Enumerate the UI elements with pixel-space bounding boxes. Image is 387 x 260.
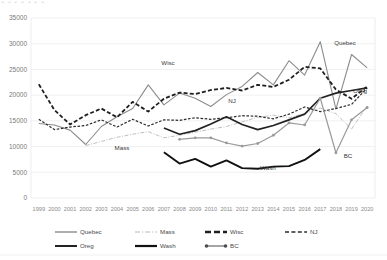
- series-label-mass: Mass: [115, 144, 130, 151]
- y-tick-label: 25000: [9, 66, 27, 73]
- x-tick-label: 2016: [298, 206, 310, 212]
- x-tick-label: 2004: [111, 206, 123, 212]
- y-tick-label: 10000: [9, 143, 27, 150]
- x-tick-label: 2005: [126, 206, 138, 212]
- legend-label-wisc: Wisc: [230, 228, 243, 235]
- y-tick-label: 35000: [9, 14, 27, 21]
- x-tick-label: 2010: [205, 206, 217, 212]
- legend-item-mass[interactable]: Mass: [135, 228, 175, 235]
- series-marker-bc: [288, 122, 291, 125]
- x-tick-label: 2007: [158, 206, 170, 212]
- legend-label-bc: BC: [230, 242, 239, 249]
- legend: QuebecMassWiscNJOregWashBC: [0, 228, 387, 255]
- chart-screenshot: ⌄ ⌄ ⌄ ⌄ ⌄ ⌄ ⌄ 05000100001500020000250003…: [0, 0, 387, 260]
- legend-item-wash[interactable]: Wash: [135, 242, 176, 249]
- series-line-nj: [39, 88, 367, 130]
- x-tick-label: 2011: [220, 206, 232, 212]
- series-label-wisc: Wisc: [161, 59, 174, 66]
- series-line-quebec: [39, 42, 367, 145]
- series-line-wisc: [39, 67, 367, 125]
- x-tick-label: 2014: [267, 206, 279, 212]
- series-marker-bc: [178, 138, 181, 141]
- legend-label-nj: NJ: [310, 228, 318, 235]
- series-line-mass: [86, 106, 367, 146]
- series-marker-bc: [256, 142, 259, 145]
- legend-item-nj[interactable]: NJ: [285, 228, 318, 235]
- y-tick-label: 30000: [9, 40, 27, 47]
- series-marker-bc: [366, 106, 369, 109]
- series-paths-group: [39, 42, 369, 169]
- y-tick-label: 5000: [13, 169, 28, 176]
- series-line-wash: [164, 149, 320, 169]
- series-marker-bc: [241, 145, 244, 148]
- series-marker-bc: [335, 151, 338, 154]
- series-label-bc: BC: [344, 152, 353, 159]
- series-label-oreg: Oreg: [353, 87, 367, 94]
- legend-item-quebec[interactable]: Quebec: [55, 228, 102, 235]
- x-tick-label: 2006: [142, 206, 154, 212]
- x-tick-label: 2000: [48, 206, 60, 212]
- legend-label-quebec: Quebec: [80, 228, 102, 235]
- x-tick-label: 2003: [95, 206, 107, 212]
- x-tick-label: 2018: [330, 206, 342, 212]
- x-tick-label: 2001: [64, 206, 76, 212]
- series-marker-bc: [272, 134, 275, 137]
- legend-item-bc[interactable]: BC: [205, 242, 239, 249]
- series-label-nj: NJ: [228, 97, 236, 104]
- x-tick-label: 2013: [252, 206, 264, 212]
- y-tick-label: 0: [23, 194, 27, 201]
- x-tick-label: 2009: [189, 206, 201, 212]
- x-tick-label: 2015: [283, 206, 295, 212]
- series-marker-bc: [319, 97, 322, 100]
- cropped-header-strip: ⌄ ⌄ ⌄ ⌄ ⌄ ⌄ ⌄: [0, 0, 387, 8]
- x-tick-label: 2012: [236, 206, 248, 212]
- series-marker-bc: [209, 136, 212, 139]
- x-axis-tick-labels: 1999200020012002200320042005200620072008…: [33, 206, 374, 212]
- legend-item-oreg[interactable]: Oreg: [55, 242, 94, 249]
- legend-label-oreg: Oreg: [80, 242, 94, 249]
- series-marker-bc: [194, 136, 197, 139]
- x-tick-label: 2008: [173, 206, 185, 212]
- legend-item-wisc[interactable]: Wisc: [205, 228, 243, 235]
- series-marker-bc: [350, 118, 353, 121]
- legend-label-mass: Mass: [160, 228, 175, 235]
- chart-area: 05000100001500020000250003000035000 1999…: [0, 8, 387, 260]
- header-ghost-text: ⌄ ⌄ ⌄ ⌄ ⌄ ⌄ ⌄: [0, 0, 45, 4]
- y-tick-label: 15000: [9, 117, 27, 124]
- series-label-quebec: Quebec: [334, 39, 356, 46]
- series-label-wash: Wash: [260, 164, 276, 171]
- x-tick-label: 2020: [361, 206, 373, 212]
- x-tick-label: 2017: [314, 206, 326, 212]
- series-marker-bc: [225, 142, 228, 145]
- x-tick-label: 1999: [33, 206, 45, 212]
- x-tick-label: 2002: [80, 206, 92, 212]
- y-axis-tick-labels: 05000100001500020000250003000035000: [9, 14, 27, 201]
- legend-label-wash: Wash: [160, 242, 176, 249]
- series-marker-bc: [303, 124, 306, 127]
- x-tick-label: 2019: [345, 206, 357, 212]
- line-chart: 05000100001500020000250003000035000 1999…: [0, 8, 387, 260]
- series-inline-labels-group: QuebecMassWiscNJOregWashBC: [115, 39, 368, 171]
- y-tick-label: 20000: [9, 91, 27, 98]
